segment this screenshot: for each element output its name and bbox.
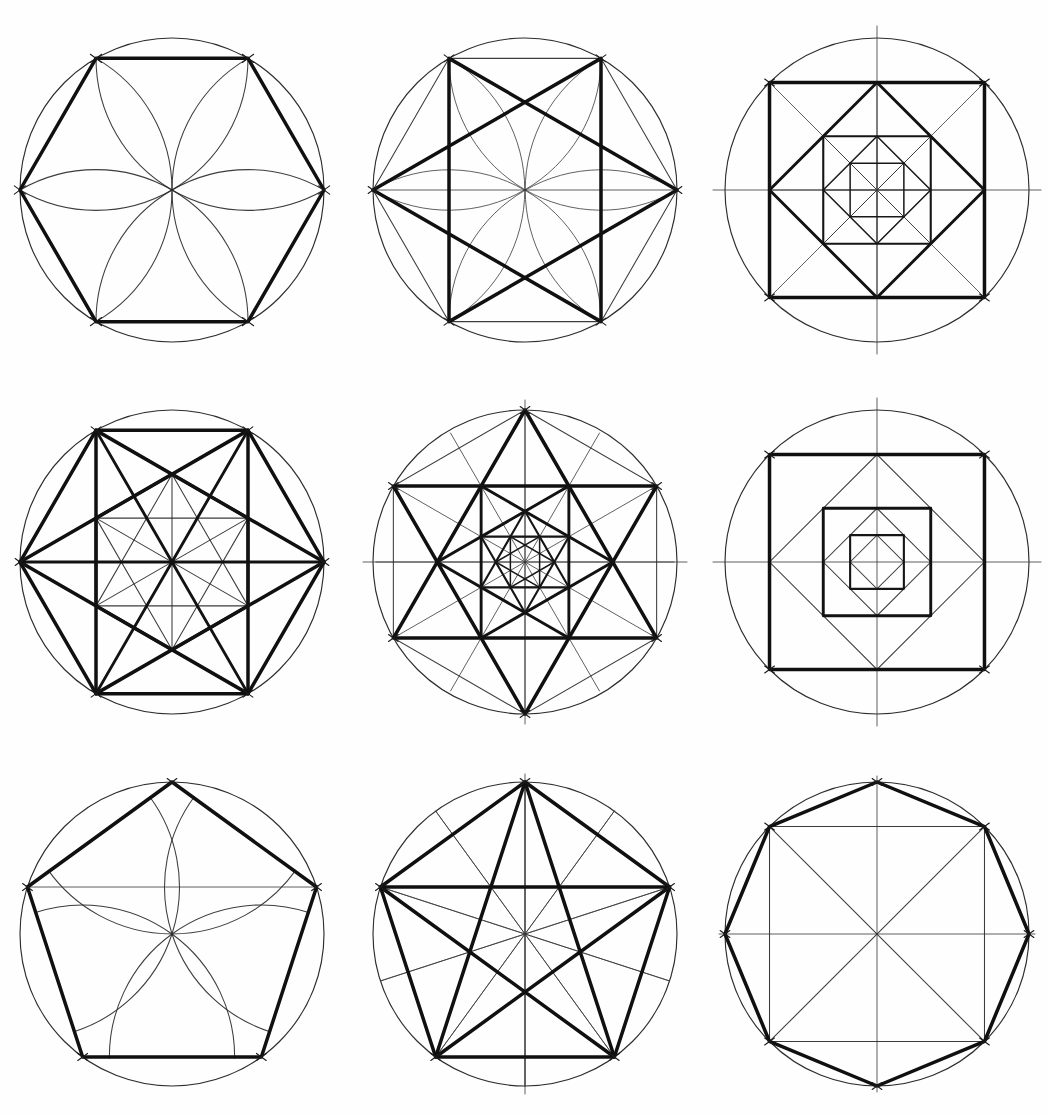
figure-layer — [15, 427, 329, 697]
guide-layer — [713, 398, 1041, 726]
guide-layer — [20, 38, 324, 342]
radial-spoke — [451, 562, 525, 691]
drawing-p3 — [700, 0, 1049, 372]
radial-spoke — [525, 433, 599, 562]
construction-arc — [449, 64, 672, 211]
drawing-p7 — [0, 744, 350, 1116]
petal-arc — [20, 58, 248, 210]
construction-arc — [377, 64, 600, 211]
petal-arc — [96, 58, 324, 210]
drawing-p2 — [350, 0, 700, 372]
panel-hexagram-star-of-david-in-hexagon — [350, 0, 700, 372]
guide-layer — [373, 38, 677, 342]
petal-arc — [96, 58, 172, 321]
panel-hexagon-with-full-diagonals-and-inner-hexagon — [0, 372, 350, 744]
guide-layer — [363, 400, 687, 724]
panel-pentagram-in-pentagon — [350, 744, 700, 1116]
panel-hexagon-with-six-petal-rosette — [0, 0, 350, 372]
panel-nested-aligned-squares-with-rotated-thin-squares — [700, 372, 1049, 744]
construction-arc — [449, 170, 672, 317]
pentagon-outline — [27, 782, 316, 1057]
guide-layer — [719, 776, 1035, 1092]
rosette-arc — [73, 797, 179, 1032]
drawing-p8 — [350, 744, 700, 1116]
panel-nested-hexagrams-triangular-lattice — [350, 372, 700, 744]
construction-sheet — [0, 0, 1049, 1116]
rosette-arc — [48, 870, 295, 934]
radial-spoke — [451, 433, 525, 562]
panel-nested-rotating-squares — [700, 0, 1049, 372]
radial-spoke — [525, 562, 599, 691]
panel-octagon-with-inscribed-square — [700, 744, 1049, 1116]
petal-arc — [96, 170, 324, 322]
petal-arc — [172, 58, 248, 321]
drawing-p6 — [700, 372, 1049, 744]
petal-arc — [20, 170, 248, 322]
guide-layer — [20, 782, 324, 1086]
guide-layer — [713, 26, 1041, 354]
figure-layer — [23, 778, 322, 1060]
drawing-p4 — [0, 372, 350, 744]
rosette-arc — [35, 905, 235, 1058]
drawing-p5 — [350, 372, 700, 744]
rosette-arc — [165, 797, 271, 1032]
construction-arc — [377, 170, 600, 317]
drawing-p9 — [700, 744, 1049, 1116]
rosette-arc — [109, 905, 309, 1058]
panel-pentagon-with-five-arc-rosette — [0, 744, 350, 1116]
drawing-p1 — [0, 0, 350, 372]
guide-layer — [373, 774, 677, 1094]
